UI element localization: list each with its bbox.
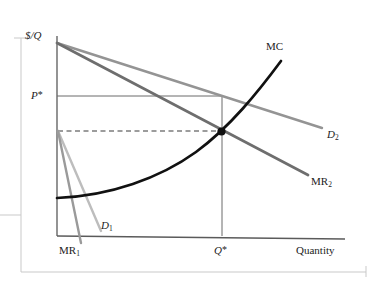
x-axis-label: Quantity (296, 245, 335, 256)
curve-mc (57, 61, 281, 198)
diagram-canvas (0, 0, 373, 283)
x-axis (57, 236, 345, 239)
curve-mr1 (58, 131, 81, 243)
curve-label-d1: D1 (101, 220, 113, 231)
equilibrium-point (217, 127, 225, 135)
curve-label-mr2: MR2 (311, 176, 332, 187)
price-marker-label: P* (31, 90, 43, 101)
curve-label-mr1: MR1 (59, 245, 80, 256)
curve-label-mc: MC (266, 41, 283, 52)
quantity-marker-label: Q* (214, 245, 227, 256)
curve-mr2 (57, 43, 308, 175)
curve-label-d2: D2 (327, 129, 339, 140)
economics-diagram: $/Q P* MC D2 MR2 D1 MR1 Q* Quantity (0, 0, 373, 283)
curve-d2 (57, 43, 322, 128)
page-frame (0, 38, 366, 277)
y-axis-label: $/Q (25, 30, 42, 41)
curve-d1 (58, 131, 101, 231)
